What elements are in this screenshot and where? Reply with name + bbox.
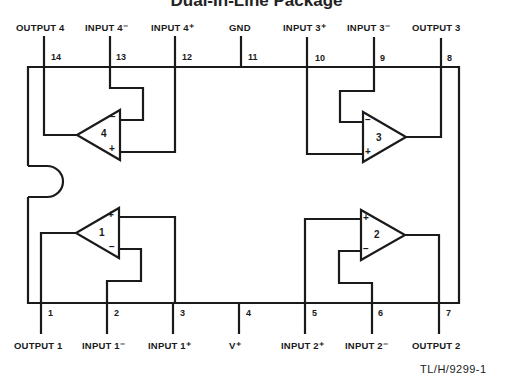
pin-4-number: 4: [246, 308, 251, 318]
pin-1-number: 1: [48, 308, 53, 318]
pin-2-number: 2: [114, 308, 119, 318]
pin-1-label: OUTPUT 1: [14, 340, 63, 351]
pin-8-label: OUTPUT 3: [412, 22, 461, 33]
package-outline: [28, 67, 459, 303]
amp-3-label: 3: [376, 132, 382, 143]
pin-5-label: INPUT 2⁺: [281, 340, 324, 351]
pin-14-label: OUTPUT 4: [16, 22, 65, 33]
pin-14-number: 14: [51, 52, 61, 62]
amp4-output-wire: [44, 67, 77, 135]
amp2-output-wire: [405, 235, 439, 303]
amp2-inverting-wire: [339, 251, 372, 303]
amp1-output-wire: [41, 233, 76, 303]
amp-2-plus: +: [363, 212, 369, 223]
pin-10-label: INPUT 3⁺: [283, 22, 326, 33]
pin-6-number: 6: [378, 308, 383, 318]
amp3-output-wire: [406, 67, 441, 137]
pin-3-number: 3: [180, 308, 185, 318]
pin-4-label: V⁺: [229, 340, 241, 351]
pin-7-label: OUTPUT 2: [412, 340, 461, 351]
amp-4-plus: +: [109, 143, 115, 154]
amp1-inverting-wire: [107, 249, 141, 303]
figure-reference: TL/H/9299-1: [420, 363, 487, 375]
pin-7-number: 7: [446, 308, 451, 318]
pin-9-number: 9: [380, 53, 385, 63]
pin-8-number: 8: [447, 53, 452, 63]
amp-3-plus: +: [365, 146, 371, 157]
pin-11-number: 11: [248, 52, 258, 62]
amp-1-plus: +: [108, 209, 114, 220]
package-notch: [28, 166, 63, 197]
pin-5-number: 5: [312, 308, 317, 318]
pin-6-label: INPUT 2⁻: [345, 340, 388, 351]
amp-2-minus: −: [363, 243, 369, 254]
amp-1-minus: −: [109, 241, 115, 252]
amp1-noninverting-wire: [119, 217, 175, 303]
pin-11-label: GND: [229, 22, 251, 33]
pin-13-number: 13: [116, 52, 126, 62]
amp3-noninverting-wire: [307, 67, 363, 154]
pin-12-label: INPUT 4⁺: [151, 22, 194, 33]
amp-3-minus: −: [365, 114, 371, 125]
amp4-noninverting-wire: [120, 67, 175, 152]
pin-9-label: INPUT 3⁻: [347, 22, 390, 33]
pin-13-label: INPUT 4⁻: [85, 22, 128, 33]
amp2-noninverting-wire: [305, 219, 361, 303]
amp-1-label: 1: [99, 227, 105, 238]
amp-2-label: 2: [374, 229, 380, 240]
amp-4-minus: −: [110, 111, 116, 122]
pin-3-label: INPUT 1⁺: [148, 340, 191, 351]
amp-4-label: 4: [101, 128, 107, 139]
pin-10-number: 10: [315, 53, 325, 63]
pin-12-number: 12: [182, 52, 192, 62]
pin-2-label: INPUT 1⁻: [82, 340, 125, 351]
